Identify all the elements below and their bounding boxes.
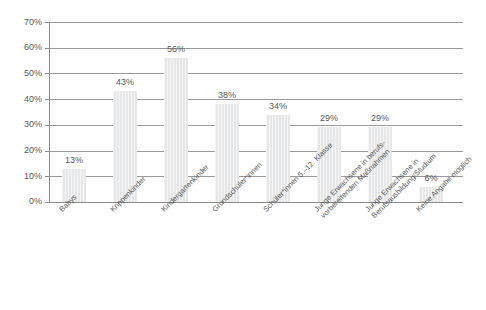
y-tick-label: 40% (0, 95, 42, 104)
y-tick-label: 30% (0, 120, 42, 129)
y-tick-label: 60% (0, 43, 42, 52)
gridline-70 (49, 22, 463, 23)
y-tick-label: 0% (0, 197, 42, 206)
gridline-30 (49, 125, 463, 126)
y-tick-label: 50% (0, 69, 42, 78)
gridline-50 (49, 73, 463, 74)
bar-chart: 70% 60% 50% 40% 30% 20% 10% 0% (0, 0, 486, 310)
bar-value-label: 38% (207, 91, 247, 100)
bar-value-label: 29% (309, 114, 349, 123)
gridline-20 (49, 151, 463, 152)
gridline-40 (49, 99, 463, 100)
y-tick-label: 70% (0, 18, 42, 27)
y-tick-label: 20% (0, 146, 42, 155)
bar-value-label: 13% (54, 156, 94, 165)
bar-value-label: 34% (258, 102, 298, 111)
bar-value-label: 56% (156, 45, 196, 54)
gridline-60 (49, 48, 463, 49)
bar-value-label: 29% (360, 114, 400, 123)
y-tick-label: 10% (0, 172, 42, 181)
bar-value-label: 43% (105, 78, 145, 87)
